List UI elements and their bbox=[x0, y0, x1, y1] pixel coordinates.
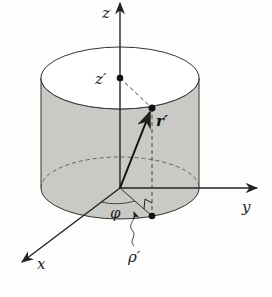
x-axis-label: x bbox=[37, 255, 46, 273]
r-prime-label: r′ bbox=[156, 112, 168, 130]
cylinder-diagram-svg: z z′ r′ y φ ρ′ x bbox=[0, 0, 272, 297]
rho-foot-point bbox=[149, 213, 156, 220]
z-axis-label: z bbox=[101, 4, 110, 22]
phi-label: φ bbox=[110, 204, 121, 222]
z-prime-point bbox=[117, 75, 124, 82]
z-prime-label: z′ bbox=[94, 70, 107, 88]
rho-prime-label: ρ′ bbox=[127, 248, 141, 266]
diagram: z z′ r′ y φ ρ′ x bbox=[0, 0, 272, 297]
r-prime-point bbox=[149, 105, 156, 112]
y-axis-label: y bbox=[241, 198, 251, 216]
